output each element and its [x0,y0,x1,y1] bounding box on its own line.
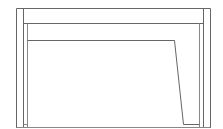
inner-frame [24,9,204,129]
slanted-panel-outline [28,41,200,125]
inner-posts [28,24,200,129]
diagram-canvas [0,0,223,128]
outer-frame [17,9,211,129]
